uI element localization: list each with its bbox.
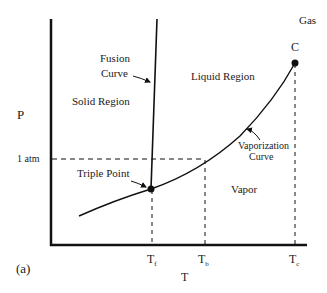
tick-tb: Tb bbox=[198, 252, 209, 268]
panel-label: (a) bbox=[16, 261, 30, 276]
phase-diagram: P 1 atm Fusion Curve Solid Region Liquid… bbox=[0, 0, 327, 293]
svg-text:Tf: Tf bbox=[147, 252, 157, 268]
triple-point-arrow-icon bbox=[131, 181, 146, 187]
critical-point-label: C bbox=[291, 40, 299, 54]
triple-point-label: Triple Point bbox=[77, 167, 129, 179]
vaporization-arrow-icon bbox=[247, 129, 260, 140]
fusion-curve-label-line1: Fusion bbox=[100, 52, 130, 64]
fusion-curve-label-line2: Curve bbox=[101, 67, 128, 79]
sublimation-curve bbox=[79, 189, 151, 216]
fusion-arrow-icon bbox=[133, 76, 150, 82]
svg-text:Tb: Tb bbox=[198, 252, 209, 268]
triple-point-dot bbox=[148, 186, 155, 193]
svg-text:Tc: Tc bbox=[289, 252, 299, 268]
vaporization-curve-label-line1: Vaporization bbox=[238, 140, 289, 151]
critical-point-dot bbox=[292, 60, 299, 67]
vaporization-curve-label-line2: Curve bbox=[249, 151, 274, 162]
one-atm-label: 1 atm bbox=[17, 153, 40, 164]
fusion-curve bbox=[151, 19, 157, 189]
solid-region-label: Solid Region bbox=[72, 95, 130, 107]
gas-label: Gas bbox=[299, 14, 316, 26]
tick-tc: Tc bbox=[289, 252, 299, 268]
tick-tf: Tf bbox=[147, 252, 157, 268]
liquid-region-label: Liquid Region bbox=[191, 70, 255, 82]
x-axis-label: T bbox=[181, 270, 189, 284]
vapor-region-label: Vapor bbox=[231, 183, 258, 195]
y-axis-label: P bbox=[17, 107, 24, 122]
